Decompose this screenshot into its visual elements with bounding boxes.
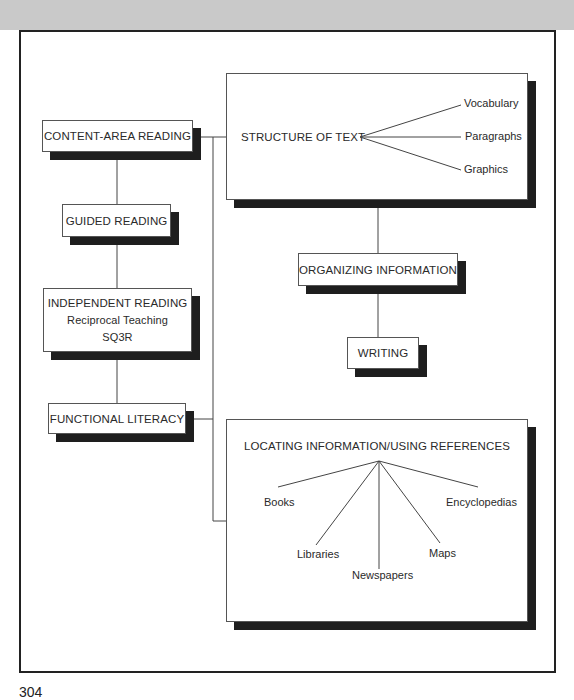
page-number: 304 — [19, 684, 42, 700]
label-maps: Maps — [429, 547, 456, 559]
independent-reading-item-reciprocal: Reciprocal Teaching — [67, 314, 168, 326]
label-books: Books — [264, 496, 295, 508]
functional-literacy-box: FUNCTIONAL LITERACY — [48, 403, 186, 434]
content-area-reading-label: CONTENT-AREA READING — [44, 130, 191, 142]
independent-reading-item-sq3r: SQ3R — [102, 331, 132, 343]
label-graphics: Graphics — [464, 163, 508, 175]
guided-reading-label: GUIDED READING — [66, 215, 168, 227]
structure-of-text-title: STRUCTURE OF TEXT — [241, 131, 369, 143]
label-libraries: Libraries — [297, 548, 339, 560]
label-encyclopedias: Encyclopedias — [446, 496, 517, 508]
guided-reading-box: GUIDED READING — [62, 204, 171, 237]
label-vocabulary: Vocabulary — [464, 97, 518, 109]
label-newspapers: Newspapers — [352, 569, 413, 581]
independent-reading-title: INDEPENDENT READING — [48, 297, 188, 309]
label-paragraphs: Paragraphs — [465, 130, 522, 142]
locating-information-title: LOCATING INFORMATION/USING REFERENCES — [244, 440, 510, 452]
content-area-reading-box: CONTENT-AREA READING — [42, 120, 193, 152]
functional-literacy-label: FUNCTIONAL LITERACY — [50, 413, 184, 425]
locating-information-box: LOCATING INFORMATION/USING REFERENCES — [226, 419, 528, 622]
writing-box: WRITING — [347, 337, 419, 369]
independent-reading-box: INDEPENDENT READING Reciprocal Teaching … — [43, 288, 192, 352]
writing-label: WRITING — [358, 347, 409, 359]
organizing-information-box: ORGANIZING INFORMATION — [298, 253, 458, 286]
organizing-information-label: ORGANIZING INFORMATION — [299, 264, 457, 276]
